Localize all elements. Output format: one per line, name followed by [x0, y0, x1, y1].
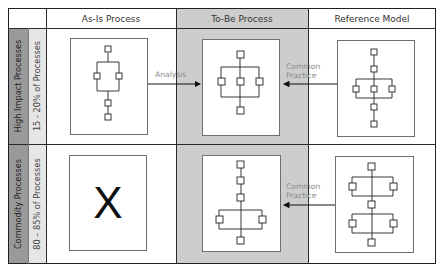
common-practice-label-commodity: Common Practice	[286, 182, 320, 200]
label-line: Common	[286, 62, 320, 71]
to-be-flow-high-impact	[218, 51, 263, 114]
label-line: Practice	[286, 191, 320, 200]
reference-flow-high-impact	[353, 49, 395, 127]
label-line: Common	[286, 182, 320, 191]
as-is-flow-high-impact	[94, 46, 122, 120]
analysis-label: Analysis	[155, 70, 186, 79]
process-flow-diagrams	[0, 0, 447, 273]
common-practice-label-high-impact: Common Practice	[286, 62, 320, 80]
reference-flow-commodity	[349, 163, 397, 246]
label-line: Practice	[286, 71, 320, 80]
to-be-flow-commodity	[216, 161, 266, 244]
